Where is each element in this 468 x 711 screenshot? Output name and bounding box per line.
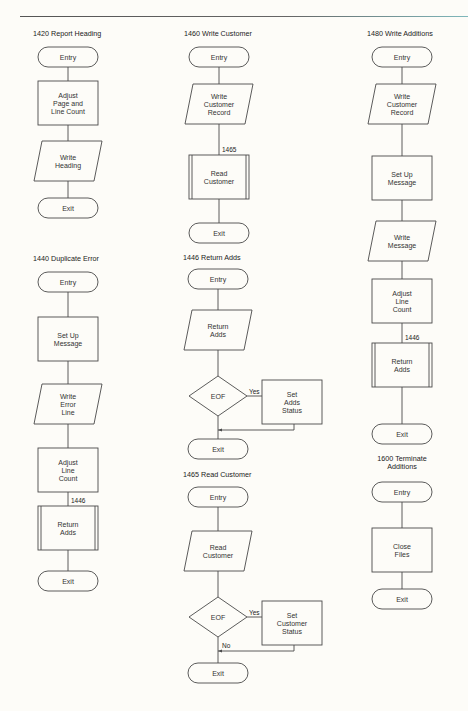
process-label: Page and <box>53 100 83 108</box>
process-label: Adjust <box>392 290 412 298</box>
terminal-label: Exit <box>396 596 408 603</box>
process-label: Set Up <box>57 332 79 340</box>
terminal-label: Entry <box>210 494 227 502</box>
yes-label: Yes <box>249 609 260 616</box>
io-label: Adds <box>210 331 226 338</box>
subroutine-reference: 1465 <box>222 146 237 153</box>
io-label: Record <box>208 109 231 116</box>
no-label: No <box>222 642 231 649</box>
module-title: Additions <box>387 462 417 471</box>
subroutine-label: Return <box>391 358 412 365</box>
process-label: Close <box>393 543 411 550</box>
io-label: Customer <box>387 101 418 108</box>
process-label: Line <box>395 298 408 305</box>
io-label: Error <box>60 401 76 408</box>
module-1420: 1420 Report HeadingEntryAdjustPage andLi… <box>33 29 102 218</box>
module-title: 1460 Write Customer <box>184 29 252 38</box>
terminal-label: Exit <box>213 230 225 237</box>
io-label: Write <box>394 234 410 241</box>
io-label: Customer <box>203 552 234 559</box>
module-1460: 1460 Write CustomerEntryWriteCustomerRec… <box>184 29 253 243</box>
process-label: Count <box>59 475 78 482</box>
terminal-label: Exit <box>62 205 74 212</box>
status-process-label: Set <box>287 391 298 398</box>
io-label: Return <box>207 323 228 330</box>
terminal-label: Entry <box>210 276 227 284</box>
io-label: Write <box>211 93 227 100</box>
io-label: Read <box>210 544 227 551</box>
terminal-label: Entry <box>60 54 77 62</box>
yes-label: Yes <box>249 388 260 395</box>
subroutine-reference: 1446 <box>71 497 86 504</box>
terminal-label: Exit <box>62 578 74 585</box>
terminal-label: Entry <box>394 54 411 62</box>
process-label: Adjust <box>58 459 78 467</box>
module-title: 1480 Write Additions <box>367 29 433 38</box>
terminal-label: Exit <box>212 446 224 453</box>
process-label: Count <box>393 306 412 313</box>
status-process-label: Set <box>287 612 298 619</box>
io-label: Message <box>388 242 417 250</box>
process-label: Adjust <box>58 92 78 100</box>
module-title: 1420 Report Heading <box>33 29 101 38</box>
io-label: Write <box>60 154 76 161</box>
status-process-label: Customer <box>277 620 308 627</box>
io-label: Write <box>394 93 410 100</box>
io-label: Write <box>60 393 76 400</box>
terminal-label: Exit <box>212 670 224 677</box>
decision-label: EOF <box>211 614 225 621</box>
module-1440: 1440 Duplicate ErrorEntrySet UpMessageWr… <box>33 254 102 591</box>
decision-label: EOF <box>211 393 225 400</box>
process-label: Line Count <box>51 108 85 115</box>
module-1446: 1446 Return AddsEntryReturnAddsEOFYesSet… <box>183 253 322 459</box>
module-title: 1440 Duplicate Error <box>33 254 100 263</box>
flowchart-page: 1420 Report HeadingEntryAdjustPage andLi… <box>0 0 468 711</box>
subroutine-reference: 1446 <box>405 334 420 341</box>
module-1480: 1480 Write AdditionsEntryWriteCustomerRe… <box>367 29 436 444</box>
module-title: 1465 Read Customer <box>183 470 252 479</box>
arrowhead <box>218 428 222 431</box>
subroutine-label: Return <box>57 521 78 528</box>
process-label: Line <box>61 467 74 474</box>
status-process-label: Status <box>282 628 302 635</box>
subroutine-label: Adds <box>60 529 76 536</box>
subroutine-label: Read <box>211 170 228 177</box>
module-title: 1446 Return Adds <box>183 253 241 262</box>
terminal-label: Entry <box>394 489 411 497</box>
process-label: Message <box>54 340 83 348</box>
process-label: Files <box>395 551 410 558</box>
io-label: Customer <box>204 101 235 108</box>
process-label: Set Up <box>391 171 413 179</box>
io-label: Heading <box>55 162 81 170</box>
status-process-label: Status <box>282 407 302 414</box>
process-label: Message <box>388 179 417 187</box>
io-label: Line <box>61 409 74 416</box>
subroutine-label: Adds <box>394 366 410 373</box>
terminal-label: Entry <box>60 279 77 287</box>
module-1465: 1465 Read CustomerEntryReadCustomerEOFYe… <box>183 470 322 683</box>
subroutine-label: Customer <box>204 178 235 185</box>
io-label: Record <box>391 109 414 116</box>
arrowhead <box>218 649 222 652</box>
module-1600: 1600 TerminateAdditionsEntryCloseFilesEx… <box>372 454 432 609</box>
status-process-label: Adds <box>284 399 300 406</box>
terminal-label: Entry <box>211 54 228 62</box>
terminal-label: Exit <box>396 431 408 438</box>
